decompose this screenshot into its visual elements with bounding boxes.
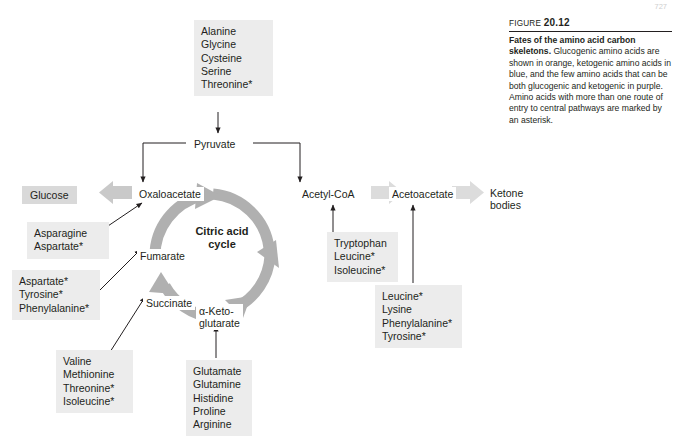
figure-number: 20.12 [544, 17, 570, 28]
node-fumarate: Fumarate [137, 249, 188, 263]
figure-number-line: FIGURE 20.12 [509, 17, 672, 29]
caption-body: Glucogenic amino acids are shown in oran… [509, 46, 671, 124]
node-ketone-bodies: Ketone bodies [487, 186, 526, 212]
figure-caption: FIGURE 20.12 Fates of the amino acid car… [509, 17, 672, 126]
aa-group-to-oxaloacetate: Asparagine Aspartate* [27, 222, 109, 259]
arrow-acetoacetate-to-ketone [452, 181, 484, 204]
aa-group-to-pyruvate: Alanine Glycine Cysteine Serine Threonin… [194, 20, 273, 96]
node-succinate: Succinate [143, 296, 195, 310]
caption-text: Fates of the amino acid carbon skeletons… [509, 35, 672, 126]
arrow-to-glucose [99, 181, 132, 204]
node-pyruvate: Pyruvate [190, 137, 239, 151]
node-acetoacetate: Acetoacetate [389, 187, 456, 201]
aa-group-to-acetyl-coa: Tryptophan Leucine* Isoleucine* [327, 232, 398, 282]
figure-word: FIGURE [509, 19, 541, 28]
citric-acid-cycle-title: Citric acid cycle [186, 225, 258, 251]
aa-group-to-fumarate: Aspartate* Tyrosine* Phenylalanine* [12, 270, 100, 320]
node-glucose: Glucose [22, 186, 77, 204]
caption-divider [509, 31, 672, 32]
node-oxaloacetate: Oxaloacetate [136, 187, 204, 201]
node-alpha-ketoglutarate: α-Keto- glutarate [196, 304, 243, 330]
aa-group-to-alpha-ketoglutarate: Glutamate Glutamine Histidine Proline Ar… [186, 360, 252, 436]
aa-group-to-acetoacetate: Leucine* Lysine Phenylalanine* Tyrosine* [375, 285, 462, 348]
aa-group-to-succinate: Valine Methionine Threonine* Isoleucine* [56, 350, 133, 413]
node-acetyl-coa: Acetyl-CoA [299, 187, 358, 201]
